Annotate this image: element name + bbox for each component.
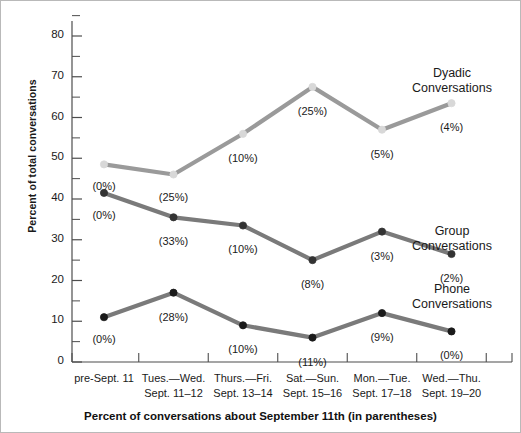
y-tick-label: 20: [30, 273, 64, 285]
x-tick-label-line: Wed.—Thu.: [406, 371, 498, 386]
point-label: (11%): [298, 356, 327, 368]
point-label: (10%): [228, 152, 257, 164]
data-point-2-2: [239, 322, 246, 329]
point-label: (3%): [370, 250, 393, 262]
point-label: (0%): [440, 349, 463, 361]
data-point-1-3: [309, 257, 316, 264]
series-line-2: [104, 293, 452, 338]
point-label: (10%): [228, 243, 257, 255]
point-label: (25%): [298, 105, 327, 117]
series-label-2: PhoneConversations: [412, 282, 492, 312]
data-point-1-1: [170, 214, 177, 221]
point-label: (25%): [159, 191, 188, 203]
point-label: (0%): [92, 209, 115, 221]
x-tick-label-line: Sept. 19–20: [406, 386, 498, 401]
point-label: (5%): [370, 148, 393, 160]
data-point-2-4: [378, 310, 385, 317]
series-label-line: Phone: [412, 282, 492, 297]
point-label: (8%): [301, 278, 324, 290]
series-line-1: [104, 193, 452, 260]
data-point-2-1: [170, 289, 177, 296]
y-tick-label: 70: [30, 69, 64, 81]
data-point-0-5: [448, 100, 455, 107]
series-label-0: DyadicConversations: [412, 66, 492, 96]
y-tick-label: 80: [30, 28, 64, 40]
point-label: (10%): [228, 343, 257, 355]
data-point-1-4: [378, 228, 385, 235]
chart-figure: Percent of total conversations 010203040…: [0, 0, 521, 433]
data-point-0-3: [309, 83, 316, 90]
series-label-line: Dyadic: [412, 66, 492, 81]
data-point-0-4: [378, 126, 385, 133]
point-label: (33%): [159, 235, 188, 247]
data-point-1-2: [239, 222, 246, 229]
series-label-1: GroupConversations: [412, 224, 492, 254]
x-axis-title: Percent of conversations about September…: [0, 410, 521, 422]
point-label: (9%): [370, 331, 393, 343]
series-line-0: [104, 87, 452, 175]
series-label-line: Conversations: [412, 297, 492, 312]
series-label-line: Group: [412, 224, 492, 239]
y-tick-label: 0: [30, 354, 64, 366]
y-tick-label: 10: [30, 313, 64, 325]
data-point-2-3: [309, 334, 316, 341]
series-label-line: Conversations: [412, 239, 492, 254]
chart-canvas: [0, 0, 521, 433]
y-tick-label: 60: [30, 110, 64, 122]
point-label: (28%): [159, 311, 188, 323]
y-tick-label: 40: [30, 191, 64, 203]
data-point-0-1: [170, 171, 177, 178]
data-point-0-2: [239, 130, 246, 137]
series-label-line: Conversations: [412, 81, 492, 96]
point-label: (4%): [440, 121, 463, 133]
y-tick-label: 50: [30, 150, 64, 162]
y-tick-label: 30: [30, 232, 64, 244]
data-point-2-5: [448, 328, 455, 335]
x-tick-label: Wed.—Thu.Sept. 19–20: [406, 371, 498, 400]
point-label: (0%): [92, 333, 115, 345]
data-point-0-0: [100, 161, 107, 168]
point-label: (0%): [92, 180, 115, 192]
data-point-2-0: [100, 314, 107, 321]
